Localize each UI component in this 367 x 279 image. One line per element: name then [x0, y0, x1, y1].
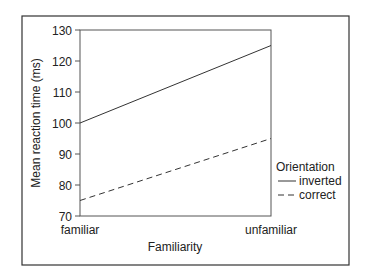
- y-tick-label: 100: [52, 117, 72, 131]
- legend-title: Orientation: [276, 160, 335, 174]
- x-axis: familiarunfamiliar: [61, 223, 297, 237]
- y-tick-label: 120: [52, 55, 72, 69]
- x-tick-label: unfamiliar: [245, 223, 297, 237]
- plot-area: [80, 30, 271, 216]
- legend-label-correct: correct: [299, 188, 336, 202]
- y-tick-label: 70: [59, 210, 73, 224]
- series-inverted: [80, 46, 271, 124]
- y-axis: 708090100110120130: [52, 24, 80, 224]
- y-tick-label: 110: [53, 86, 72, 100]
- y-tick-label: 130: [52, 24, 72, 38]
- x-tick-label: familiar: [61, 223, 100, 237]
- chart: 708090100110120130 familiarunfamiliar Fa…: [0, 0, 367, 279]
- y-tick-label: 90: [59, 148, 73, 162]
- legend-label-inverted: inverted: [299, 174, 342, 188]
- y-tick-label: 80: [59, 179, 73, 193]
- series-lines: [80, 46, 271, 201]
- y-axis-label: Mean reaction time (ms): [29, 58, 43, 187]
- x-axis-label: Familiarity: [148, 240, 203, 254]
- series-correct: [80, 139, 271, 201]
- legend: Orientation invertedcorrect: [276, 160, 342, 202]
